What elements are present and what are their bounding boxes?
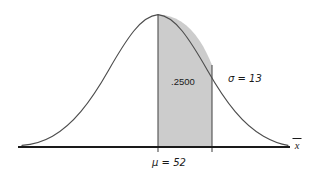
x-bar-letter: x — [294, 140, 300, 151]
area-probability-label: .2500 — [171, 76, 195, 87]
figure-background — [0, 0, 313, 177]
sigma-label: σ = 13 — [228, 73, 262, 84]
distribution-canvas: .2500 σ = 13 μ = 52 x — [0, 0, 313, 177]
normal-distribution-figure: .2500 σ = 13 μ = 52 x — [0, 0, 313, 177]
mu-label: μ = 52 — [151, 157, 186, 168]
